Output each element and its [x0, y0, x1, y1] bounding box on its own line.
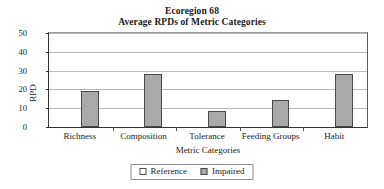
bar-impaired-composition[interactable] — [144, 74, 162, 127]
gridline — [49, 71, 367, 72]
x-axis-label: Metric Categories — [48, 145, 368, 155]
x-category-label: Habit — [302, 131, 366, 141]
gridline — [49, 33, 367, 34]
chart-title: Ecoregion 68 — [0, 6, 384, 17]
y-axis-label: RPD — [28, 73, 38, 113]
x-category-label: Feeding Groups — [239, 131, 303, 141]
y-tick-label: 0 — [0, 123, 27, 131]
y-tick-mark — [46, 127, 49, 128]
y-tick-label: 10 — [0, 104, 27, 112]
bar-impaired-tolerance[interactable] — [208, 111, 226, 127]
legend-swatch-reference-icon — [140, 168, 147, 175]
y-tick-mark — [46, 89, 49, 90]
chart-legend: Reference Impaired — [131, 164, 254, 180]
y-tick-label: 20 — [0, 85, 27, 93]
bar-impaired-richness[interactable] — [81, 91, 99, 127]
y-tick-mark — [46, 52, 49, 53]
y-tick-mark — [46, 33, 49, 34]
x-category-label: Richness — [48, 131, 112, 141]
y-tick-mark — [46, 71, 49, 72]
y-tick-label: 50 — [0, 29, 27, 37]
bar-impaired-habit[interactable] — [335, 74, 353, 127]
y-tick-label: 30 — [0, 67, 27, 75]
legend-label-reference: Reference — [151, 167, 187, 176]
gridline — [49, 52, 367, 53]
chart-subtitle: Average RPDs of Metric Categories — [0, 17, 384, 28]
plot-area: 01020304050 — [48, 32, 368, 128]
bar-impaired-feeding-groups[interactable] — [272, 100, 290, 127]
chart-title-block: Ecoregion 68 Average RPDs of Metric Cate… — [0, 6, 384, 28]
legend-item-reference[interactable]: Reference — [140, 167, 187, 176]
x-category-label: Tolerance — [175, 131, 239, 141]
y-tick-mark — [46, 108, 49, 109]
legend-label-impaired: Impaired — [212, 167, 244, 176]
legend-swatch-impaired-icon — [201, 168, 208, 175]
y-tick-label: 40 — [0, 48, 27, 56]
chart-figure: Ecoregion 68 Average RPDs of Metric Cate… — [0, 0, 384, 189]
x-category-label: Composition — [112, 131, 176, 141]
legend-item-impaired[interactable]: Impaired — [201, 167, 244, 176]
